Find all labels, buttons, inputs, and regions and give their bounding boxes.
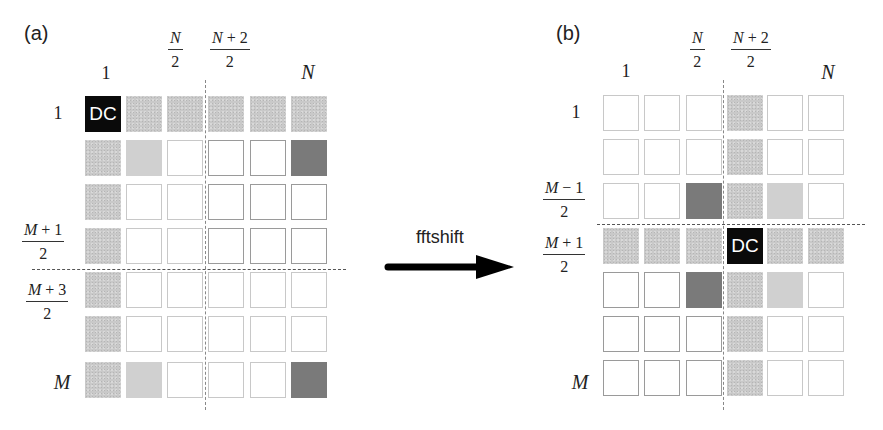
grid-cell	[167, 228, 203, 264]
grid-cell	[126, 140, 162, 176]
grid-cell	[291, 140, 327, 176]
grid-cell	[167, 362, 203, 398]
horizontal-divider	[597, 224, 865, 225]
grid-cell	[686, 95, 722, 131]
grid-cell	[767, 95, 803, 131]
row-label-m-plus-1-over-2: M + 1 2	[22, 222, 64, 262]
grid-cell	[291, 316, 327, 352]
grid-cell	[250, 96, 286, 132]
grid-cell	[85, 316, 121, 352]
grid-cell	[291, 228, 327, 264]
grid-cell	[208, 228, 244, 264]
grid-cell	[767, 316, 803, 352]
grid-cell	[644, 183, 680, 219]
grid-cell	[644, 316, 680, 352]
panel-a-label: (a)	[24, 22, 48, 45]
grid-cell	[727, 316, 763, 352]
grid-cell	[808, 183, 844, 219]
grid-cell	[126, 316, 162, 352]
grid-cell	[644, 360, 680, 396]
grid-cell	[727, 272, 763, 308]
grid-cell	[686, 316, 722, 352]
grid-cell	[767, 272, 803, 308]
horizontal-divider	[32, 269, 346, 270]
grid-cell	[603, 228, 639, 264]
grid-cell	[767, 139, 803, 175]
col-label-1: 1	[616, 62, 636, 80]
col-label-n-plus-2-over-2: N + 2 2	[210, 30, 250, 70]
grid-cell	[767, 228, 803, 264]
grid-cell	[727, 183, 763, 219]
row-label-m: M	[568, 372, 592, 392]
grid-cell	[250, 316, 286, 352]
arrow-right-icon	[380, 252, 520, 282]
row-label-1: 1	[566, 103, 586, 121]
grid-cell	[167, 272, 203, 308]
grid-cell	[126, 228, 162, 264]
col-label-n-plus-2-over-2: N + 2 2	[731, 30, 771, 70]
grid-cell	[85, 272, 121, 308]
grid-cell	[250, 140, 286, 176]
grid-cell	[686, 272, 722, 308]
grid-cell	[291, 184, 327, 220]
grid-cell	[767, 183, 803, 219]
grid-cell	[603, 139, 639, 175]
grid-cell	[644, 95, 680, 131]
grid-cell	[644, 139, 680, 175]
grid-cell	[208, 184, 244, 220]
grid-cell	[208, 272, 244, 308]
col-label-n: N	[298, 62, 318, 82]
vertical-divider	[723, 80, 724, 410]
panel-b-label: (b)	[556, 22, 580, 45]
grid-cell	[167, 140, 203, 176]
col-label-n-over-2: N 2	[168, 30, 183, 70]
dc-cell: DC	[85, 96, 121, 132]
col-label-n: N	[818, 62, 838, 82]
grid-cell	[85, 140, 121, 176]
col-label-n-over-2: N 2	[690, 30, 705, 70]
grid-cell	[686, 360, 722, 396]
row-label-m-minus-1-over-2: M − 1 2	[543, 180, 585, 220]
grid-cell	[644, 228, 680, 264]
grid-cell	[85, 362, 121, 398]
grid-cell	[686, 139, 722, 175]
grid-cell	[208, 362, 244, 398]
grid-cell	[167, 184, 203, 220]
grid-cell	[603, 95, 639, 131]
grid-cell	[644, 272, 680, 308]
grid-cell	[808, 228, 844, 264]
grid-cell	[126, 96, 162, 132]
grid-cell	[291, 362, 327, 398]
grid-cell	[686, 228, 722, 264]
grid-cell	[167, 316, 203, 352]
grid-cell	[85, 228, 121, 264]
grid-cell	[167, 96, 203, 132]
grid-cell	[603, 316, 639, 352]
grid-cell	[250, 184, 286, 220]
grid-cell	[808, 316, 844, 352]
grid-cell	[767, 360, 803, 396]
grid-cell	[126, 362, 162, 398]
dc-cell: DC	[727, 228, 763, 264]
grid-cell	[686, 183, 722, 219]
grid-cell	[126, 272, 162, 308]
grid-cell	[208, 140, 244, 176]
row-label-m-plus-1-over-2: M + 1 2	[543, 235, 585, 275]
arrow-label: fftshift	[416, 227, 464, 248]
grid-cell	[603, 360, 639, 396]
row-label-m-plus-3-over-2: M + 3 2	[26, 282, 68, 322]
col-label-1: 1	[96, 64, 116, 82]
grid-cell	[291, 272, 327, 308]
grid-cell	[291, 96, 327, 132]
grid-cell	[85, 184, 121, 220]
grid-cell	[727, 360, 763, 396]
grid-cell	[727, 139, 763, 175]
grid-cell	[208, 316, 244, 352]
grid-cell	[727, 95, 763, 131]
grid-cell	[808, 95, 844, 131]
grid-cell	[208, 96, 244, 132]
grid-cell	[808, 139, 844, 175]
grid-cell	[808, 272, 844, 308]
grid-cell	[603, 183, 639, 219]
row-label-m: M	[50, 372, 74, 392]
